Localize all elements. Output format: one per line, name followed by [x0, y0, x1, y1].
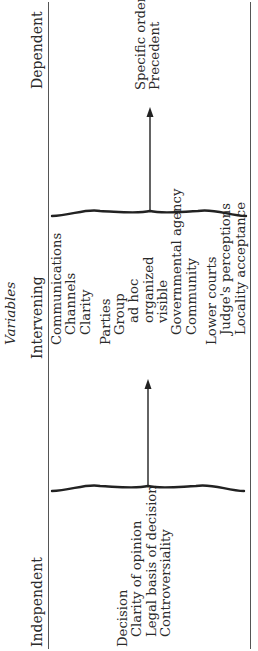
variables-diagram: Variables Independent Intervening Depend… [0, 0, 258, 651]
connectors [0, 0, 258, 651]
brace-2-icon [52, 210, 246, 216]
brace-1-icon [52, 485, 244, 491]
